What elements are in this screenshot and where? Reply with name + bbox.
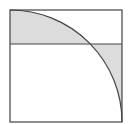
shaded-region-right [91, 44, 122, 122]
geometry-diagram [0, 0, 132, 124]
shaded-region-upper-left [10, 10, 91, 44]
